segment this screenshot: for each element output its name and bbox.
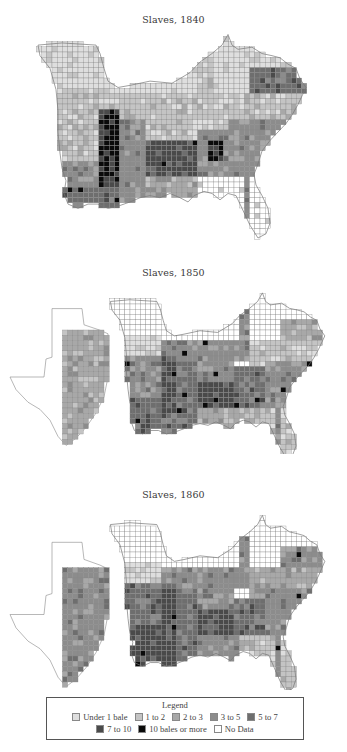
county-cell <box>229 156 234 161</box>
county-cell <box>296 314 301 319</box>
county-cell <box>203 346 208 351</box>
county-cell <box>120 151 125 156</box>
county-cell <box>151 552 156 557</box>
county-cell <box>161 166 166 171</box>
county-cell <box>182 568 187 573</box>
county-cell <box>270 356 275 361</box>
county-cell <box>135 620 140 625</box>
county-cell <box>307 542 312 547</box>
county-cell <box>224 408 229 413</box>
county-cell <box>218 52 223 57</box>
county-cell <box>192 372 197 377</box>
county-cell <box>239 542 244 547</box>
county-cell <box>276 351 281 356</box>
county-cell <box>270 68 275 73</box>
county-cell <box>161 413 166 418</box>
county-cell <box>68 625 73 630</box>
county-cell <box>260 392 265 397</box>
county-cell <box>94 408 99 413</box>
county-cell <box>99 104 104 109</box>
county-cell <box>146 568 151 573</box>
county-cell <box>198 187 203 192</box>
county-cell <box>125 135 130 140</box>
county-cell <box>135 94 140 99</box>
county-cell <box>250 594 255 599</box>
county-cell <box>146 146 151 151</box>
county-cell <box>255 229 260 234</box>
county-cell <box>135 346 140 351</box>
county-cell <box>270 552 275 557</box>
county-cell <box>281 330 286 335</box>
county-cell <box>213 166 218 171</box>
map-title-1840: Slaves, 1840 <box>0 14 347 25</box>
legend-label: Under 1 bale <box>83 711 127 723</box>
county-cell <box>83 47 88 52</box>
county-cell <box>244 151 249 156</box>
county-cell <box>286 361 291 366</box>
county-cell <box>146 588 151 593</box>
county-cell <box>161 356 166 361</box>
county-cell <box>166 151 171 156</box>
county-cell <box>68 439 73 444</box>
county-cell <box>229 562 234 567</box>
county-cell <box>120 125 125 130</box>
county-cell <box>177 177 182 182</box>
county-cell <box>146 536 151 541</box>
county-cell <box>208 372 213 377</box>
county-cell <box>120 314 125 319</box>
county-cell <box>244 604 249 609</box>
county-cell <box>208 604 213 609</box>
county-cell <box>224 335 229 340</box>
county-cell <box>255 208 260 213</box>
county-cell <box>203 366 208 371</box>
county-cell <box>177 356 182 361</box>
county-cell <box>78 651 83 656</box>
county-cell <box>260 382 265 387</box>
county-cell <box>192 172 197 177</box>
county-cell <box>177 594 182 599</box>
county-cell <box>255 366 260 371</box>
county-cell <box>250 151 255 156</box>
county-cell <box>88 583 93 588</box>
county-cell <box>192 640 197 645</box>
county-cell <box>224 130 229 135</box>
county-cell <box>135 325 140 330</box>
county-cell <box>130 104 135 109</box>
county-cell <box>146 99 151 104</box>
county-cell <box>151 314 156 319</box>
county-cell <box>229 403 234 408</box>
county-cell <box>73 198 78 203</box>
county-cell <box>260 125 265 130</box>
county-cell <box>130 604 135 609</box>
county-cell <box>286 536 291 541</box>
county-cell <box>88 377 93 382</box>
county-cell <box>83 377 88 382</box>
county-cell <box>151 562 156 567</box>
county-cell <box>239 356 244 361</box>
county-cell <box>208 361 213 366</box>
county-cell <box>120 104 125 109</box>
county-cell <box>203 177 208 182</box>
county-cell <box>88 340 93 345</box>
county-cell <box>198 335 203 340</box>
county-cell <box>172 594 177 599</box>
county-cell <box>109 140 114 145</box>
county-cell <box>198 418 203 423</box>
county-cell <box>234 135 239 140</box>
county-cell <box>94 130 99 135</box>
county-cell <box>73 156 78 161</box>
county-cell <box>78 387 83 392</box>
county-cell <box>281 382 286 387</box>
legend-swatch <box>247 713 255 721</box>
county-cell <box>68 130 73 135</box>
county-cell <box>302 335 307 340</box>
county-cell <box>88 578 93 583</box>
county-cell <box>104 99 109 104</box>
county-cell <box>302 346 307 351</box>
county-cell <box>130 526 135 531</box>
county-cell <box>172 146 177 151</box>
county-cell <box>68 651 73 656</box>
county-cell <box>244 52 249 57</box>
county-cell <box>281 78 286 83</box>
county-cell <box>203 382 208 387</box>
